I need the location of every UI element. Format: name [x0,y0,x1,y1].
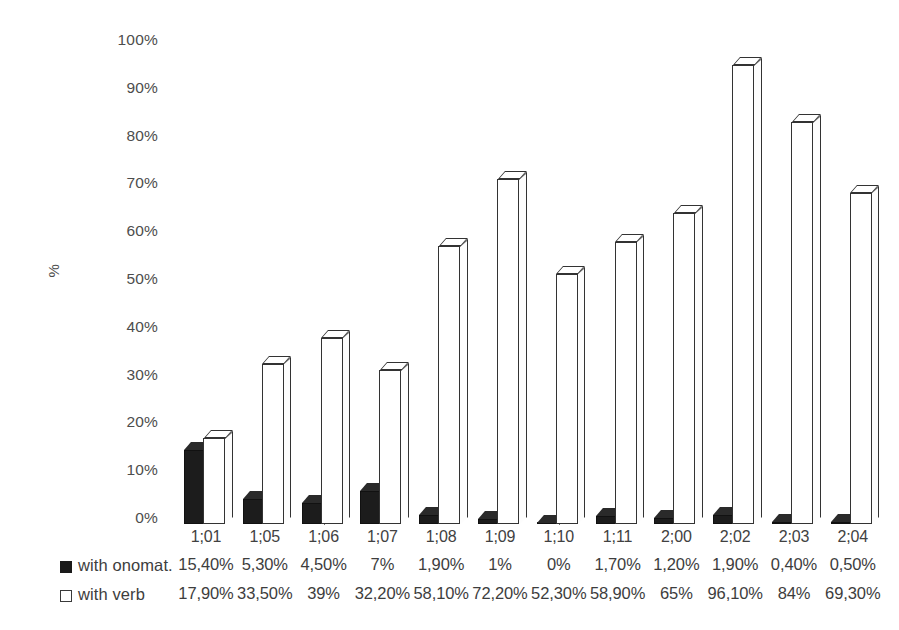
bar-front-face [673,213,695,524]
bar-side-face [401,363,409,524]
bar-verb-1-10 [556,274,578,524]
y-axis-tick-30: 30% [96,367,158,383]
bar-front-face [850,193,872,524]
bar-side-face [577,267,585,524]
bar-verb-2-03 [791,122,813,524]
bar-side-face [283,357,291,524]
bar-side-face [342,331,350,524]
bar-verb-2-04 [850,193,872,524]
bar-side-face [871,186,879,524]
table-row-categories: 1;011;051;061;071;081;091;101;112;002;02… [0,528,899,554]
bar-group-1-05 [241,30,299,524]
bar-side-face [225,431,233,524]
bar-front-face [732,65,754,524]
bar-group-1-07 [358,30,416,524]
x-axis-label-2-04: 2;04 [818,528,888,546]
y-axis-tick-100: 100% [96,32,158,48]
bar-group-2-02 [711,30,769,524]
y-axis-tick-40: 40% [96,319,158,335]
bar-front-face [262,364,284,524]
bar-front-face [556,274,578,524]
bar-front-face [791,122,813,524]
legend-label-verb: with verb [78,585,145,604]
legend-swatch-hollow-square-icon [60,590,72,602]
y-axis-title: % [45,256,62,286]
bar-side-face [754,58,762,524]
value-verb-2-04: 69,30% [818,584,888,603]
bar-group-1-10 [535,30,593,524]
value-onomat-2-04: 0,50% [818,555,888,574]
bar-side-face [695,206,703,524]
bar-verb-1-07 [379,370,401,524]
bar-front-face [321,338,343,524]
table-row-verb: with verb 17,90%33,50%39%32,20%58,10%72,… [0,584,899,610]
bar-verb-1-08 [438,246,460,524]
y-axis-tick-20: 20% [96,414,158,430]
y-axis-tick-90: 90% [96,80,158,96]
legend-label-onomat: with onomat. [78,556,173,575]
bar-front-face [497,179,519,524]
bar-verb-1-06 [321,338,343,524]
bar-side-face [813,116,821,524]
y-axis-tick-70: 70% [96,175,158,191]
bar-verb-1-05 [262,364,284,524]
bar-side-face [519,172,527,524]
data-table: 1;011;051;061;071;081;091;101;112;002;02… [0,528,899,624]
bar-group-1-09 [476,30,534,524]
bar-group-1-11 [594,30,652,524]
legend-swatch-filled-square-icon [60,561,72,573]
plot-area [168,24,874,524]
bar-verb-2-02 [732,65,754,524]
bar-verb-1-11 [615,242,637,524]
bar-side-face [460,239,468,524]
bar-side-face [636,236,644,524]
bar-front-face [379,370,401,524]
y-axis-tick-0: 0% [96,510,158,526]
y-axis-tick-50: 50% [96,271,158,287]
bar-front-face [438,246,460,524]
bar-verb-1-09 [497,179,519,524]
bar-group-1-06 [300,30,358,524]
table-row-onomat: with onomat. 15,40%5,30%4,50%7%1,90%1%0%… [0,555,899,581]
bar-group-1-08 [417,30,475,524]
bar-verb-1-01 [203,438,225,524]
bar-front-face [203,438,225,524]
y-axis-tick-60: 60% [96,223,158,239]
bar-verb-2-00 [673,213,695,524]
y-axis-tick-80: 80% [96,128,158,144]
bar-group-2-03 [770,30,828,524]
bar-group-1-01 [182,30,240,524]
bar-group-2-04 [829,30,887,524]
y-axis-tick-10: 10% [96,462,158,478]
bar-group-2-00 [652,30,710,524]
bar-chart: % 0%10%20%30%40%50%60%70%80%90%100% 1;01… [0,0,899,630]
bar-front-face [615,242,637,524]
